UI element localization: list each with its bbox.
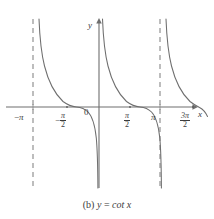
asymptote-group bbox=[33, 19, 160, 188]
origin-label: 0 bbox=[84, 108, 89, 117]
curve-group bbox=[7, 19, 208, 188]
caption-function-rhs: cot x bbox=[112, 199, 131, 210]
intercept-pi-over-2 bbox=[129, 106, 131, 108]
cot-branch-right bbox=[166, 19, 208, 117]
caption-equals: = bbox=[104, 199, 110, 210]
x-tick-label-pi: π bbox=[151, 113, 156, 122]
cot-branch-left bbox=[39, 19, 98, 188]
pi-symbol-neg-pi: π bbox=[19, 112, 24, 122]
plot-canvas bbox=[0, 0, 214, 219]
caption-function-lhs: y bbox=[97, 199, 101, 210]
axes-group bbox=[6, 23, 193, 188]
y-axis-label: y bbox=[88, 21, 92, 30]
fraction-pi-over-2: π 2 bbox=[124, 112, 130, 130]
pi-symbol-pi: π bbox=[151, 112, 156, 122]
fraction-denominator: 2 bbox=[180, 121, 190, 129]
fraction-3pi-over-2: 3π 2 bbox=[180, 112, 190, 130]
cot-function-figure: y x 0 −π − π 2 π 2 π 3π 2 (b) y = cot x bbox=[0, 0, 214, 219]
x-axis-label: x bbox=[198, 110, 202, 119]
x-tick-label-neg-pi: −π bbox=[14, 113, 24, 122]
intercept-3pi-over-2 bbox=[192, 106, 194, 108]
intercept-neg-pi-over-2 bbox=[66, 106, 68, 108]
x-tick-label-3pi-over-2: 3π 2 bbox=[180, 112, 190, 130]
caption-part-label: (b) bbox=[83, 199, 95, 210]
cot-branch-middle bbox=[103, 19, 162, 188]
figure-caption: (b) y = cot x bbox=[0, 199, 214, 210]
fraction-denominator: 2 bbox=[124, 121, 130, 129]
x-tick-label-neg-pi-over-2: − π 2 bbox=[55, 112, 66, 130]
fraction-neg-pi-over-2: π 2 bbox=[60, 112, 66, 130]
x-tick-label-pi-over-2: π 2 bbox=[124, 112, 130, 130]
fraction-denominator: 2 bbox=[60, 121, 66, 129]
